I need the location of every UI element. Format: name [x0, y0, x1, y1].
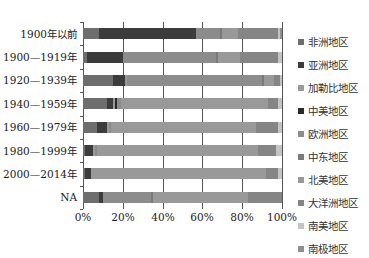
legend-item: 中美地区 [298, 99, 358, 122]
bar-segment [121, 98, 268, 109]
legend-label: 中东地区 [308, 149, 348, 164]
bar-segment [83, 122, 97, 133]
x-tick-label: 80% [222, 211, 262, 223]
x-tick-label: 20% [103, 211, 143, 223]
y-axis-line [83, 22, 84, 209]
bar-segment [280, 28, 282, 39]
legend-item: 南美地区 [298, 214, 358, 237]
legend-swatch-icon [298, 108, 304, 114]
gridline [123, 22, 124, 209]
legend-label: 非洲地区 [308, 34, 348, 49]
legend-label: 亚洲地区 [308, 57, 348, 72]
y-tick [80, 139, 83, 140]
legend-swatch-icon [298, 62, 304, 68]
legend-item: 南极地区 [298, 237, 358, 258]
bar-segment [276, 145, 282, 156]
bar-segment [99, 28, 197, 39]
y-tick-label: 1920—1939年 [3, 74, 77, 86]
bar-segment [248, 192, 282, 203]
bar-row [83, 168, 282, 179]
bar-segment [278, 98, 282, 109]
bar-segment [111, 122, 256, 133]
y-tick-label: 1960—1979年 [3, 121, 77, 133]
y-tick-label: 1940—1959年 [3, 98, 77, 110]
gridline [282, 22, 283, 209]
x-tick-label: 60% [182, 211, 222, 223]
bar-segment [87, 52, 123, 63]
bar-segment [222, 28, 238, 39]
bar-segment [97, 145, 258, 156]
legend: 非洲地区亚洲地区加勒比地区中美地区欧洲地区中东地区北美地区大洋洲地区南美地区南极… [298, 30, 358, 258]
legend-swatch-icon [298, 246, 304, 252]
y-tick [80, 116, 83, 117]
legend-swatch-icon [298, 223, 304, 229]
bar-row [83, 145, 282, 156]
bar-segment [258, 145, 276, 156]
gridline [163, 22, 164, 209]
bar-segment [278, 122, 282, 133]
bar-segment [83, 75, 113, 86]
plot-area [83, 22, 282, 209]
y-tick-label: 1900—1919年 [3, 51, 77, 63]
legend-item: 大洋洲地区 [298, 191, 358, 214]
legend-swatch-icon [298, 200, 304, 206]
bar-segment [196, 28, 220, 39]
bar-segment [103, 192, 151, 203]
y-tick [80, 92, 83, 93]
bar-segment [256, 122, 278, 133]
legend-item: 欧洲地区 [298, 122, 358, 145]
y-tick [80, 209, 83, 210]
gridline [242, 22, 243, 209]
x-tick-label: 100% [262, 211, 302, 223]
bar-row [83, 98, 282, 109]
y-tick [80, 186, 83, 187]
bar-segment [113, 75, 125, 86]
legend-label: 中美地区 [308, 103, 348, 118]
bar-row [83, 192, 282, 203]
legend-item: 非洲地区 [298, 30, 358, 53]
legend-label: 加勒比地区 [308, 80, 358, 95]
bar-segment [278, 168, 282, 179]
legend-label: 南美地区 [308, 218, 348, 233]
legend-item: 加勒比地区 [298, 76, 358, 99]
bar-segment [240, 52, 278, 63]
bar-segment [218, 52, 240, 63]
bar-segment [280, 75, 282, 86]
y-tick [80, 45, 83, 46]
y-tick [80, 22, 83, 23]
y-tick-label: 2000—2014年 [3, 168, 77, 180]
x-tick-label: 0% [63, 211, 103, 223]
legend-label: 大洋洲地区 [308, 195, 358, 210]
legend-item: 北美地区 [298, 168, 358, 191]
bar-segment [83, 192, 99, 203]
y-tick-label: 1980—1999年 [3, 145, 77, 157]
bar-segment [153, 192, 249, 203]
gridline [202, 22, 203, 209]
y-tick-label: 1900年以前 [20, 28, 77, 40]
legend-swatch-icon [298, 177, 304, 183]
bar-segment [266, 168, 278, 179]
bar-segment [83, 28, 99, 39]
bar-segment [278, 52, 282, 63]
bar-segment [268, 98, 278, 109]
legend-label: 北美地区 [308, 172, 348, 187]
y-tick-label: NA [60, 191, 77, 203]
bar-row [83, 75, 282, 86]
legend-swatch-icon [298, 154, 304, 160]
bar-segment [93, 168, 266, 179]
bar-row [83, 52, 282, 63]
x-tick-label: 40% [143, 211, 183, 223]
legend-item: 中东地区 [298, 145, 358, 168]
y-tick [80, 162, 83, 163]
bar-segment [264, 75, 274, 86]
legend-swatch-icon [298, 85, 304, 91]
bar-segment [123, 52, 217, 63]
legend-item: 亚洲地区 [298, 53, 358, 76]
bar-segment [238, 28, 278, 39]
bar-row [83, 122, 282, 133]
legend-swatch-icon [298, 131, 304, 137]
y-tick [80, 69, 83, 70]
bar-row [83, 28, 282, 39]
legend-label: 南极地区 [308, 241, 348, 256]
